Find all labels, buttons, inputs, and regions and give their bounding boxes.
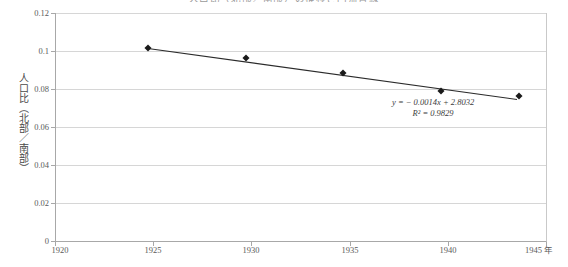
gridline-0.06 xyxy=(56,127,546,128)
chart-title: 人口比（北部／南部）の推移と回帰直線 xyxy=(0,0,568,2)
x-tick-label-1940: 1940 xyxy=(440,246,457,255)
y-tick-mark-0.04 xyxy=(51,165,55,166)
y-tick-mark-0.02 xyxy=(51,203,55,204)
chart-figure: 人口比（北部／南部）の推移と回帰直線 人口比（北部／南部） 0.12 0.1 0… xyxy=(0,0,568,267)
y-tick-mark-0.08 xyxy=(51,89,55,90)
gridline-0.08 xyxy=(56,89,546,90)
x-tick-label-1920: 1920 xyxy=(52,246,69,255)
plot-area xyxy=(55,13,547,242)
regression-r-squared: R² = 0.9829 xyxy=(392,108,474,119)
y-tick-label-0.02: 0.02 xyxy=(34,199,49,208)
gridline-0.10 xyxy=(56,51,546,52)
y-tick-mark-0.12 xyxy=(51,13,55,14)
x-tick-label-1925: 1925 xyxy=(145,246,162,255)
y-tick-mark-0.10 xyxy=(51,51,55,52)
regression-annotation: y = − 0.0014x + 2.8032 R² = 0.9829 xyxy=(392,97,474,118)
gridline-0.04 xyxy=(56,165,546,166)
y-tick-label-0: 0 xyxy=(45,237,49,246)
x-tick-label-1930: 1930 xyxy=(243,246,260,255)
y-tick-label-0.08: 0.08 xyxy=(34,85,49,94)
x-tick-label-1935: 1935 xyxy=(342,246,359,255)
regression-equation: y = − 0.0014x + 2.8032 xyxy=(392,97,474,108)
y-tick-label-0.04: 0.04 xyxy=(34,161,49,170)
y-tick-label-0.10: 0.1 xyxy=(38,47,49,56)
y-tick-label-0.12: 0.12 xyxy=(34,9,49,18)
gridline-0.02 xyxy=(56,203,546,204)
x-tick-label-1945: 1945 年 xyxy=(525,246,553,255)
gridline-0.12 xyxy=(56,13,546,14)
y-axis-label: 人口比（北部／南部） xyxy=(10,60,28,185)
y-tick-label-0.06: 0.06 xyxy=(34,123,49,132)
y-tick-mark-0.06 xyxy=(51,127,55,128)
